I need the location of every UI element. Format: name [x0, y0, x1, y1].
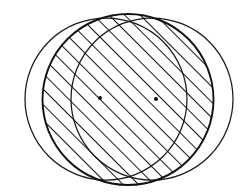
right-circle-center-dot	[154, 97, 158, 101]
circles-intersection-svg	[0, 0, 252, 196]
figure-canvas	[0, 0, 252, 196]
left-circle-center-dot	[98, 96, 102, 100]
